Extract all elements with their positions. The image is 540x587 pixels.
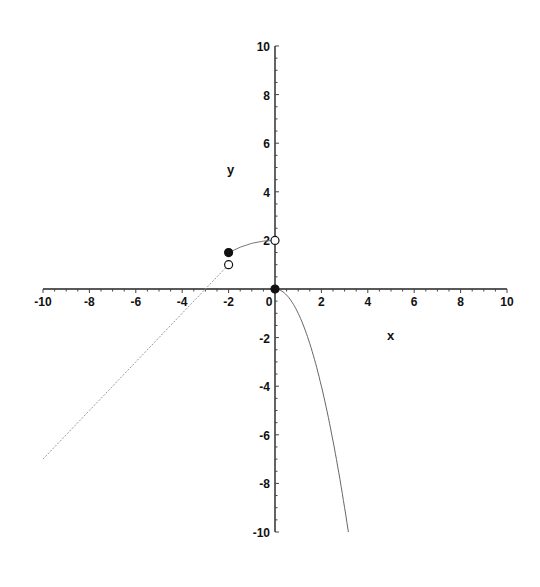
y-tick-label: -2 (259, 332, 270, 346)
y-tick-label: -4 (259, 380, 270, 394)
filled-point (225, 249, 233, 257)
open-point (271, 236, 279, 244)
y-tick-label: 4 (263, 186, 270, 200)
x-tick-label: 10 (500, 295, 514, 309)
x-tick-label: -2 (223, 295, 234, 309)
x-tick-label: -8 (84, 295, 95, 309)
x-tick-label: -4 (177, 295, 188, 309)
curve-1 (43, 265, 229, 459)
x-tick-label: 6 (411, 295, 418, 309)
y-axis-label: y (227, 162, 235, 177)
x-tick-label: 4 (364, 295, 371, 309)
points (225, 236, 279, 293)
x-axis-label: x (387, 328, 395, 343)
filled-point (271, 285, 279, 293)
x-tick-label: 0 (266, 295, 273, 309)
curves (43, 240, 348, 532)
y-tick-label: -6 (259, 429, 270, 443)
function-plot: -10-8-6-4-20246810108642-2-4-6-8-10 y x (0, 0, 540, 587)
y-tick-label: -10 (253, 526, 271, 540)
x-tick-label: 2 (318, 295, 325, 309)
y-tick-label: -8 (259, 477, 270, 491)
y-tick-label: 10 (257, 40, 271, 54)
y-tick-label: 6 (263, 137, 270, 151)
x-tick-label: 8 (457, 295, 464, 309)
y-tick-label: 8 (263, 89, 270, 103)
x-tick-label: -10 (34, 295, 52, 309)
open-point (225, 261, 233, 269)
x-tick-label: -6 (130, 295, 141, 309)
curve-3 (275, 289, 348, 532)
